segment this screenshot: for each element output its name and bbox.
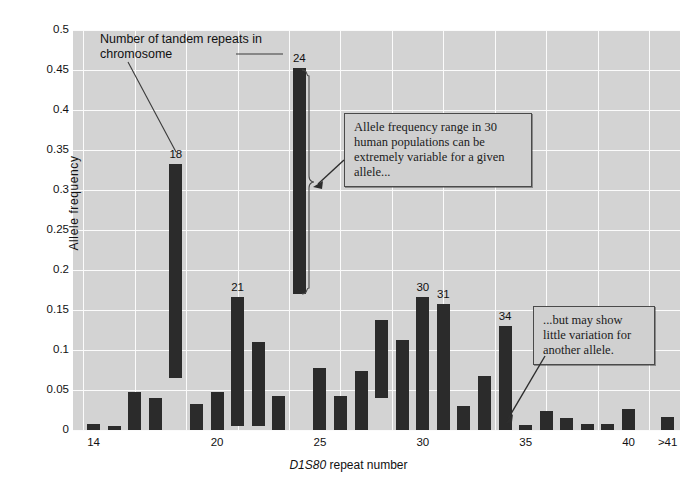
bar [622,409,635,430]
callout-variable-range: Allele frequency range in 30 human popul… [344,113,532,187]
gridline-y-5 [73,230,680,231]
y-tick-label: 0.35 [23,144,69,156]
bar [355,371,368,430]
y-tick-label: 0.05 [23,384,69,396]
bar [661,417,674,430]
gridline-x-2 [186,30,187,430]
bar [190,404,203,430]
y-tick-label: 0.3 [23,184,69,196]
gridline-x-8 [495,30,496,430]
bar [293,68,306,294]
x-tick-label: 35 [519,436,532,448]
x-tick-label: 30 [416,436,429,448]
callout-little-variation: ...but may show little variation for ano… [533,306,655,365]
bar [601,424,614,430]
bar-label-31: 31 [437,288,450,300]
x-tick-label: 25 [314,436,327,448]
gridline-x-11 [649,30,650,430]
bar [457,406,470,430]
gridline-y-6 [73,190,680,191]
x-tick-label: >41 [658,436,678,448]
bar-label-30: 30 [416,281,429,293]
bar [149,398,162,430]
bar [375,320,388,398]
y-tick-label: 0.2 [23,264,69,276]
x-axis-title: D1S80 repeat number [0,458,697,472]
gridline-x-1 [135,30,136,430]
gridline-x-10 [598,30,599,430]
gridline-x-0 [83,30,84,430]
bar-label-21: 21 [231,281,244,293]
allele-frequency-chart: 00.050.10.150.20.250.30.350.40.450.5 142… [0,0,697,492]
gridline-y-4 [73,270,680,271]
y-tick-label: 0 [23,424,69,436]
bar [87,424,100,430]
bar [540,411,553,430]
bar [519,425,532,430]
gridline-x-6 [392,30,393,430]
bar [169,164,182,378]
bar [272,396,285,430]
gridline-x-9 [546,30,547,430]
bar [252,342,265,426]
bar [231,297,244,426]
y-tick-label: 0.25 [23,224,69,236]
bar [560,418,573,430]
y-tick-label: 0.15 [23,304,69,316]
bar [416,297,429,430]
y-tick-label: 0.45 [23,64,69,76]
gridline-y-9 [73,70,680,71]
y-axis-title: Allele frequency [67,123,81,283]
bar [581,424,594,430]
bar [499,326,512,430]
gridline-y-8 [73,110,680,111]
y-tick-label: 0.1 [23,344,69,356]
tandem-repeats-annotation: Number of tandem repeats in chromosome [100,32,275,62]
bar [396,340,409,430]
bar [334,396,347,430]
x-axis-title-locus: D1S80 [289,458,326,472]
x-tick-label: 14 [87,436,100,448]
bar [313,368,326,430]
y-axis-ticks: 00.050.10.150.20.250.30.350.40.450.5 [14,0,69,492]
bar [128,392,141,430]
bar [478,376,491,430]
x-axis-title-rest: repeat number [326,458,407,472]
bar-label-24: 24 [293,52,306,64]
plot-area [73,30,680,430]
bar [437,304,450,430]
bar-label-18: 18 [169,148,182,160]
gridline-x-4 [289,30,290,430]
bar [108,426,121,430]
x-tick-label: 20 [211,436,224,448]
gridline-y-10 [73,30,680,31]
bar-label-34: 34 [499,310,512,322]
x-tick-label: 40 [622,436,635,448]
y-tick-label: 0.5 [23,24,69,36]
bar [211,392,224,430]
y-tick-label: 0.4 [23,104,69,116]
gridline-x-5 [340,30,341,430]
